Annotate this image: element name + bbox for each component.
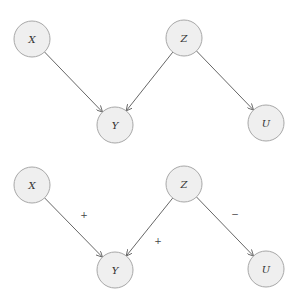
node-label: Z	[180, 33, 189, 44]
node-label: X	[27, 180, 36, 191]
node-u: U	[248, 251, 284, 287]
signed-dag: ++−XYZU	[14, 166, 284, 288]
edge-sign-label: +	[80, 210, 88, 220]
edge-sign-label: +	[154, 236, 162, 246]
edge-z-to-y	[126, 52, 172, 110]
edge-z-to-u	[196, 197, 253, 256]
node-label: X	[27, 34, 36, 45]
node-x: X	[14, 21, 50, 57]
node-label: Z	[180, 179, 189, 190]
unsigned-dag: XYZU	[14, 20, 284, 143]
node-z: Z	[166, 20, 202, 56]
node-y: Y	[97, 107, 133, 143]
node-u: U	[248, 105, 284, 141]
node-z: Z	[166, 166, 202, 202]
edge-x-to-y	[45, 198, 102, 257]
edge-z-to-u	[196, 51, 253, 110]
node-label: U	[262, 118, 271, 129]
edge-z-to-y	[127, 198, 173, 256]
edge-sign-label: −	[231, 209, 239, 219]
node-label: U	[262, 264, 271, 275]
edge-x-to-y	[45, 52, 103, 112]
causal-diagram: XYZU++−XYZU	[0, 0, 300, 303]
node-x: X	[14, 167, 50, 203]
node-y: Y	[97, 252, 133, 288]
